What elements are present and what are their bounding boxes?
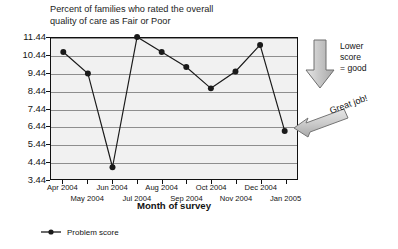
y-tick-label: 10.44 (4, 50, 46, 59)
y-tick-label: 4.44 (4, 157, 46, 166)
arrow-down-icon (304, 38, 338, 92)
x-tick-label: Apr 2004 (47, 184, 78, 192)
data-point (208, 85, 214, 91)
data-point (159, 49, 165, 55)
data-point (85, 70, 91, 76)
plot-area (50, 37, 298, 180)
data-point (257, 42, 263, 48)
data-point (282, 128, 288, 134)
y-tick-label: 9.44 (4, 68, 46, 77)
x-tick-label: Oct 2004 (196, 184, 227, 192)
x-tick-label: Dec 2004 (245, 184, 278, 192)
y-tick-mark (46, 73, 50, 74)
legend-label: Problem score (67, 228, 119, 237)
y-tick-label: 3.44 (4, 175, 46, 184)
y-tick-mark (46, 55, 50, 56)
y-tick-mark (46, 91, 50, 92)
y-tick-label: 8.44 (4, 86, 46, 95)
y-tick-mark (46, 37, 50, 38)
y-tick-label: 6.44 (4, 122, 46, 131)
y-tick-label: 7.44 (4, 104, 46, 113)
y-tick-mark (46, 109, 50, 110)
data-point (183, 64, 189, 70)
y-axis: 11.4410.449.448.447.446.445.444.443.44 (0, 37, 46, 180)
chart-container: Percent of families who rated the overal… (0, 0, 398, 249)
data-point (233, 69, 239, 75)
x-tick-label: Jun 2004 (96, 184, 127, 192)
chart-title: Percent of families who rated the overal… (50, 4, 310, 27)
y-tick-mark (46, 162, 50, 163)
y-tick-label: 11.44 (4, 32, 46, 41)
lower-score-label: Lower score = good (340, 41, 367, 75)
legend: Problem score (40, 227, 119, 237)
y-tick-label: 5.44 (4, 140, 46, 149)
y-tick-mark (46, 144, 50, 145)
annotation-great-job: Great job! (292, 100, 398, 152)
data-point (60, 49, 66, 55)
y-tick-mark (46, 126, 50, 127)
series-line (63, 37, 284, 167)
data-point (134, 34, 140, 40)
x-tick-label: Aug 2004 (145, 184, 178, 192)
legend-marker-icon (40, 227, 62, 237)
x-axis-title: Month of survey (50, 200, 298, 211)
series-problem-score (51, 38, 297, 180)
data-point (110, 164, 116, 170)
annotation-lower-score: Lower score = good (304, 38, 398, 94)
